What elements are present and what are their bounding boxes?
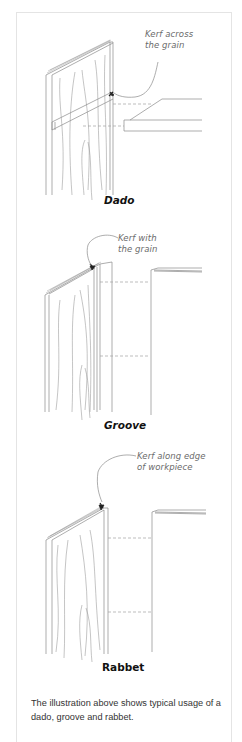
dado-drawing [46,40,202,200]
dado-label: Dado [104,194,135,206]
rabbet-callout: Kerf along edge of workpiece [137,451,206,473]
figure-caption: The illustration above shows typical usa… [31,696,231,724]
groove-callout: Kerf with the grain [118,233,157,255]
dado-callout: Kerf across the grain [145,29,193,51]
rabbet-callout-line1: Kerf along edge [137,451,206,462]
rabbet-callout-line2: of workpiece [137,462,206,473]
dado-callout-line2: the grain [145,40,193,51]
dado-callout-line1: Kerf across [145,29,193,40]
groove-callout-line1: Kerf with [118,233,157,244]
groove-drawing [45,235,202,420]
groove-callout-line2: the grain [118,244,157,255]
rabbet-drawing [46,455,206,662]
rabbet-label: Rabbet [102,661,144,673]
groove-label: Groove [104,419,146,431]
